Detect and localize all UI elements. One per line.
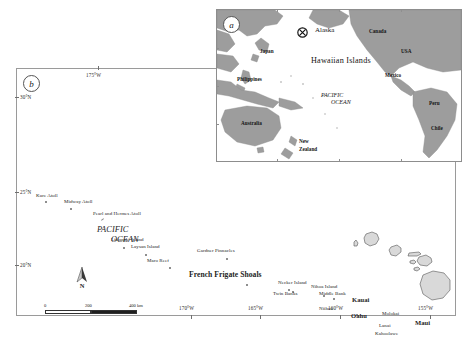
- place-label-lisianski-island: Lisianski Island: [111, 237, 144, 242]
- place-label-molokai: Molokai: [382, 311, 399, 316]
- pacific-overview-inset-panel: a Alaska Canada USA Mexico Japan Philipp…: [216, 9, 462, 162]
- inset-tick-left-2: [216, 86, 219, 87]
- place-label-kure-atoll: Kure Atoll: [36, 193, 58, 198]
- island-shape-maui: [417, 255, 432, 266]
- island-dot-pacific-5: [324, 113, 325, 114]
- island-dot-pacific-1: [302, 83, 304, 85]
- scale-bar-label-400km: 400 km: [129, 303, 143, 308]
- scale-bar-segment-1: [45, 310, 91, 314]
- place-label-middle-bank: Middle Bank: [319, 291, 346, 296]
- inset-label-alaska: Alaska: [315, 26, 334, 34]
- place-label-niihau: Niihau: [319, 306, 333, 311]
- scale-bar-label-200: 200: [85, 303, 92, 308]
- island-dot-pacific-6: [336, 127, 337, 128]
- circled-x-marker-icon: [297, 27, 308, 38]
- inset-tick-left-1: [216, 48, 219, 49]
- figure-canvas: b PACIFIC OCEAN: [0, 0, 471, 340]
- inset-label-philippines: Philippines: [237, 76, 262, 82]
- island-shape-kauai: [364, 232, 379, 246]
- island-shape-kahoolawe: [414, 267, 420, 271]
- inset-label-usa: USA: [401, 48, 411, 54]
- inset-label-canada: Canada: [369, 28, 386, 34]
- island-shape-molokai: [408, 252, 421, 256]
- inset-tick-top-2: [339, 9, 340, 12]
- landmass-tasmania: [257, 147, 264, 153]
- panel-label-b: b: [23, 75, 40, 92]
- inset-label-hawaiian-islands: Hawaiian Islands: [311, 56, 371, 65]
- place-label-maui: Maui: [415, 319, 430, 326]
- inset-tick-top-3: [401, 9, 402, 12]
- island-shape-hawaii: [420, 271, 450, 300]
- place-label-kahoolawe: Kahoolawe: [375, 331, 398, 336]
- north-arrow-label: N: [80, 282, 85, 289]
- north-arrow: N: [73, 267, 91, 293]
- inset-label-pacific-ocean: PACIFIC OCEAN: [321, 92, 351, 106]
- inset-ocean-line1: PACIFIC: [321, 92, 343, 98]
- inset-tick-left-3: [216, 124, 219, 125]
- ocean-label-line1: PACIFIC: [97, 225, 128, 234]
- inset-label-chile: Chile: [431, 125, 443, 131]
- inset-label-zealand: Zealand: [299, 146, 317, 152]
- island-shape-oahu: [389, 245, 401, 256]
- place-label-french-frigate-shoals: French Frigate Shoals: [189, 270, 262, 279]
- inset-label-japan: Japan: [260, 48, 274, 54]
- inset-basemap: [217, 10, 461, 161]
- inset-label-mexico: Mexico: [385, 72, 401, 78]
- place-label-lanai: Lanai: [379, 323, 391, 328]
- scale-bar-label-0: 0: [44, 303, 46, 308]
- inset-label-australia: Australia: [241, 120, 262, 126]
- place-label-maro-reef: Maro Reef: [147, 258, 169, 263]
- scale-bar: 0 200 400 km: [45, 304, 155, 318]
- inset-tick-top-1: [277, 9, 278, 12]
- island-shape-niihau: [354, 240, 358, 246]
- panel-label-a: a: [223, 16, 240, 33]
- place-label-laysan-island: Laysan Island: [131, 244, 160, 249]
- inset-tick-bottom-2: [339, 159, 340, 162]
- place-label-nihoa-island: Nihoa Island: [311, 284, 337, 289]
- inset-tick-bottom-1: [277, 159, 278, 162]
- inset-label-new: New: [299, 138, 309, 144]
- island-dot-pacific-3: [290, 75, 291, 76]
- place-label-pearl-and-hermes-atoll: Pearl and Hermes Atoll: [93, 211, 141, 216]
- inset-tick-bottom-3: [401, 159, 402, 162]
- island-dot-pacific-2: [312, 97, 313, 98]
- inset-label-peru: Peru: [429, 100, 440, 106]
- place-label-twin-banks: Twin Banks: [273, 291, 297, 296]
- scale-bar-segment-2: [91, 310, 137, 314]
- place-label-necker-island: Necker Island: [278, 280, 307, 285]
- place-label-oahu: Oahu: [351, 312, 367, 319]
- island-shape-lanai: [410, 260, 416, 264]
- place-label-gardner-pinnacles: Gardner Pinnacles: [197, 248, 235, 253]
- place-label-midway-atoll: Midway Atoll: [64, 199, 93, 204]
- place-label-kauai: Kauai: [352, 296, 369, 303]
- north-arrow-icon: [73, 267, 91, 283]
- island-dot-pacific-4: [280, 81, 282, 83]
- inset-ocean-line2: OCEAN: [331, 99, 351, 106]
